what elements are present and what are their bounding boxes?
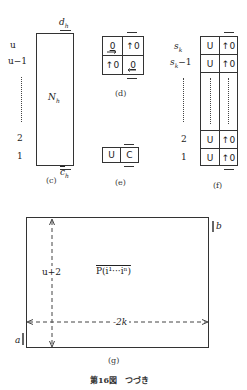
figure-caption: 第16図 つづき xyxy=(90,374,149,385)
panel-g-corner-b: b xyxy=(216,221,222,231)
panel-g-caption: (g) xyxy=(108,356,119,365)
panel-g-vertical-label: u+2 xyxy=(42,266,61,278)
panel-g-corner-a: a xyxy=(15,335,20,345)
panel-g-horizontal-label: -2k xyxy=(111,317,129,327)
panel-g-dashed-arrows xyxy=(0,0,247,390)
panel-g-center-label: P(i¹···iⁿ) xyxy=(96,266,131,276)
